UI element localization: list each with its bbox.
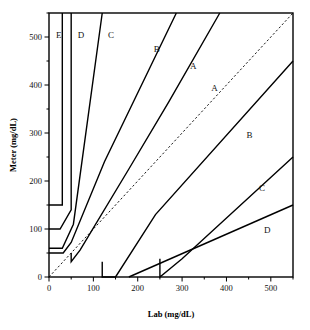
zone-boundaries (49, 13, 293, 277)
boundary-zone-E-upper-boundary (49, 13, 62, 205)
y-tick-label: 0 (0, 273, 42, 282)
boundary-zone-A-upper-boundary (71, 13, 220, 262)
y-tick-label: 100 (0, 225, 42, 234)
x-axis-title: Lab (mg/dL) (148, 310, 195, 319)
boundary-zone-B-lower-boundary (160, 157, 293, 277)
zone-label-b: B (247, 131, 253, 140)
y-tick-label: 500 (0, 33, 42, 42)
zone-label-e: E (56, 30, 62, 39)
x-tick-label: 400 (220, 284, 233, 293)
zone-label-d: D (78, 30, 85, 39)
boundary-zone-C-upper-left-boundary (49, 13, 102, 248)
y-tick-label: 400 (0, 81, 42, 90)
zone-label-d: D (264, 225, 271, 234)
x-tick-label: 100 (87, 284, 100, 293)
y-axis-title: Meter (mg/dL) (9, 118, 18, 172)
zone-label-b: B (154, 45, 160, 54)
zone-label-c: C (259, 184, 265, 193)
y-tick-label: 200 (0, 177, 42, 186)
boundary-zone-D-upper-left-boundary (49, 13, 71, 229)
zone-label-a: A (190, 61, 197, 70)
x-tick-label: 200 (131, 284, 144, 293)
zone-label-c: C (108, 30, 114, 39)
zone-label-a: A (211, 84, 218, 93)
x-tick-label: 300 (176, 284, 189, 293)
x-tick-label: 0 (47, 284, 51, 293)
boundary-zone-C-lower-boundary (129, 205, 293, 277)
clarke-error-grid-figure: 0100200300400500 0100200300400500 Lab (m… (0, 0, 310, 330)
x-tick-label: 500 (264, 284, 277, 293)
boundary-identity-line (49, 13, 293, 277)
y-tick-label: 300 (0, 129, 42, 138)
